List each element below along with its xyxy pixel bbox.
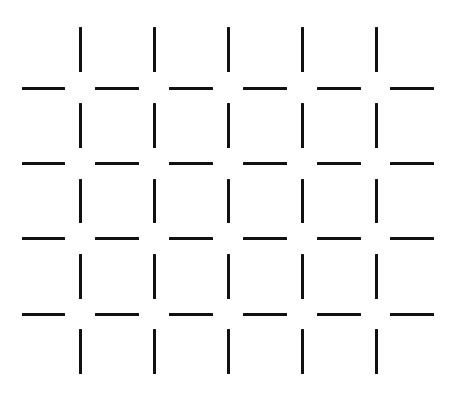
vertical-line-segment bbox=[375, 254, 378, 299]
vertical-line-segment bbox=[153, 103, 156, 148]
horizontal-line-segment bbox=[22, 162, 65, 165]
horizontal-line-segment bbox=[390, 87, 434, 90]
horizontal-line-segment bbox=[169, 313, 213, 316]
vertical-line-segment bbox=[375, 27, 378, 72]
vertical-line-segment bbox=[375, 179, 378, 223]
line-segment-grid-figure bbox=[0, 0, 460, 405]
horizontal-line-segment bbox=[317, 313, 361, 316]
vertical-line-segment bbox=[153, 254, 156, 299]
vertical-line-segment bbox=[301, 254, 304, 299]
horizontal-line-segment bbox=[95, 313, 139, 316]
horizontal-line-segment bbox=[317, 237, 361, 240]
vertical-line-segment bbox=[301, 329, 304, 374]
vertical-line-segment bbox=[153, 179, 156, 223]
horizontal-line-segment bbox=[390, 162, 434, 165]
horizontal-line-segment bbox=[169, 162, 213, 165]
vertical-line-segment bbox=[79, 27, 82, 72]
vertical-line-segment bbox=[375, 329, 378, 374]
horizontal-line-segment bbox=[95, 162, 139, 165]
vertical-line-segment bbox=[301, 27, 304, 72]
vertical-line-segment bbox=[227, 254, 230, 299]
horizontal-line-segment bbox=[169, 87, 213, 90]
vertical-line-segment bbox=[227, 179, 230, 223]
horizontal-line-segment bbox=[317, 87, 361, 90]
horizontal-line-segment bbox=[169, 237, 213, 240]
vertical-line-segment bbox=[79, 103, 82, 148]
vertical-line-segment bbox=[153, 27, 156, 72]
horizontal-line-segment bbox=[95, 237, 139, 240]
horizontal-line-segment bbox=[243, 237, 287, 240]
horizontal-line-segment bbox=[243, 162, 287, 165]
vertical-line-segment bbox=[79, 329, 82, 374]
horizontal-line-segment bbox=[390, 237, 434, 240]
vertical-line-segment bbox=[79, 179, 82, 223]
vertical-line-segment bbox=[79, 254, 82, 299]
horizontal-line-segment bbox=[22, 313, 65, 316]
vertical-line-segment bbox=[301, 179, 304, 223]
horizontal-line-segment bbox=[243, 313, 287, 316]
horizontal-line-segment bbox=[317, 162, 361, 165]
vertical-line-segment bbox=[227, 103, 230, 148]
horizontal-line-segment bbox=[243, 87, 287, 90]
vertical-line-segment bbox=[153, 329, 156, 374]
vertical-line-segment bbox=[375, 103, 378, 148]
vertical-line-segment bbox=[301, 103, 304, 148]
horizontal-line-segment bbox=[390, 313, 434, 316]
vertical-line-segment bbox=[227, 329, 230, 374]
vertical-line-segment bbox=[227, 27, 230, 72]
horizontal-line-segment bbox=[95, 87, 139, 90]
horizontal-line-segment bbox=[22, 87, 65, 90]
horizontal-line-segment bbox=[22, 237, 65, 240]
